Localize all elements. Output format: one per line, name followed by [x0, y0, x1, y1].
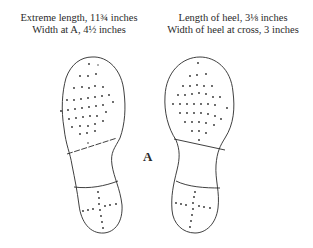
sole-diagram	[0, 0, 313, 248]
right-heel-line	[176, 181, 220, 188]
right-forefoot-nails	[172, 62, 228, 141]
left-heel-line	[74, 181, 118, 188]
left-waist-line	[67, 138, 117, 154]
point-a-label: A	[143, 149, 152, 165]
left-heel-cross-nails	[82, 191, 117, 229]
right-heel-cross-nails	[175, 191, 211, 228]
left-forefoot-nails	[60, 63, 114, 144]
left-sole-outline	[62, 57, 125, 233]
